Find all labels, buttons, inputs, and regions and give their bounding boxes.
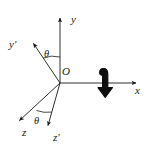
z-prime-axis-label: z′ bbox=[52, 131, 60, 143]
theta-upper-label: θ bbox=[44, 48, 49, 59]
x-axis-label: x bbox=[134, 84, 140, 96]
z-axis-line bbox=[20, 83, 61, 121]
y-prime-axis: y′ bbox=[8, 38, 60, 83]
y-prime-axis-label: y′ bbox=[8, 38, 17, 50]
theta-upper-angle: θ bbox=[43, 48, 60, 59]
z-prime-axis-line bbox=[48, 83, 60, 126]
y-axis-label: y bbox=[70, 13, 76, 25]
z-axis-label: z bbox=[21, 126, 27, 138]
figure-container: y x z y′ z′ θ θ bbox=[0, 0, 148, 149]
theta-lower-label: θ bbox=[34, 115, 39, 126]
origin-label: O bbox=[62, 65, 70, 77]
coordinate-axes-diagram: y x z y′ z′ θ θ bbox=[0, 0, 148, 149]
theta-lower-arc bbox=[37, 111, 52, 113]
z-axis: z bbox=[20, 83, 61, 138]
